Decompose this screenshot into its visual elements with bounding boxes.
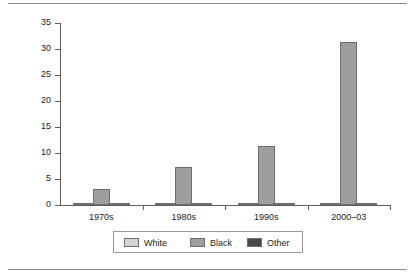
bar-black-1980s[interactable]: [175, 167, 192, 205]
y-axis-tick: [55, 127, 60, 128]
y-axis-tick: [55, 179, 60, 180]
y-axis-tick-label: 0: [21, 200, 51, 209]
y-axis-tick: [55, 205, 60, 206]
bar-white-1990s[interactable]: [238, 203, 260, 205]
bar-other-1980s[interactable]: [190, 203, 212, 205]
bar-white-200003[interactable]: [320, 203, 342, 205]
legend-item-other[interactable]: Other: [247, 236, 290, 249]
y-axis-tick: [55, 153, 60, 154]
y-axis-tick-label: 25: [21, 70, 51, 79]
legend-swatch-black: [190, 238, 205, 247]
legend-swatch-white: [124, 238, 139, 247]
x-axis-tick: [308, 205, 309, 210]
y-axis-tick: [55, 101, 60, 102]
chart-figure: 05101520253035 1970s1980s1990s2000–03 Wh…: [0, 0, 415, 280]
y-axis-tick: [55, 49, 60, 50]
x-axis-label: 2000–03: [314, 212, 384, 222]
y-axis-tick: [55, 23, 60, 24]
bar-other-1990s[interactable]: [273, 203, 295, 205]
bar-black-1990s[interactable]: [258, 146, 275, 205]
y-axis-tick-label: 20: [21, 96, 51, 105]
x-axis-label: 1990s: [231, 212, 301, 222]
legend-swatch-other: [247, 238, 262, 247]
x-axis-tick: [390, 205, 391, 210]
bar-other-1970s[interactable]: [108, 203, 130, 205]
legend-item-white[interactable]: White: [124, 236, 167, 249]
legend-label-white: White: [144, 238, 167, 248]
bar-other-200003[interactable]: [355, 203, 377, 205]
y-axis-tick-label: 15: [21, 122, 51, 131]
x-axis-tick: [225, 205, 226, 210]
legend-label-black: Black: [210, 238, 232, 248]
bar-white-1980s[interactable]: [155, 203, 177, 205]
bar-black-200003[interactable]: [340, 42, 357, 205]
y-axis-tick: [55, 75, 60, 76]
legend-item-black[interactable]: Black: [190, 236, 232, 249]
y-axis-tick-label: 35: [21, 18, 51, 27]
x-axis-label: 1970s: [66, 212, 136, 222]
y-axis-tick-label: 30: [21, 44, 51, 53]
chart-legend: WhiteBlackOther: [113, 231, 303, 253]
x-axis-label: 1980s: [149, 212, 219, 222]
x-axis-tick: [143, 205, 144, 210]
y-axis-tick-label: 5: [21, 174, 51, 183]
y-axis-line: [60, 23, 61, 206]
legend-label-other: Other: [267, 238, 290, 248]
y-axis-tick-label: 10: [21, 148, 51, 157]
bar-white-1970s[interactable]: [73, 203, 95, 205]
